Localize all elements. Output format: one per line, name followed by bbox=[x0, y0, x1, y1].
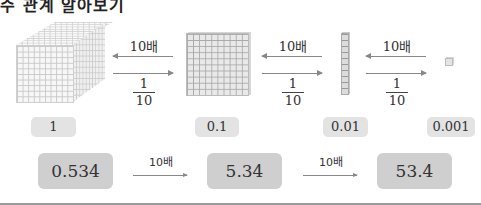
left-arrow-icon bbox=[113, 56, 173, 57]
ten-rod-illustration bbox=[341, 33, 349, 95]
conversion-arrows-3: 10배 1 10 bbox=[366, 36, 428, 106]
times-ten-arrow-2: 10배 bbox=[303, 153, 359, 183]
value-tag-0-001: 0.001 bbox=[427, 117, 475, 137]
one-tenth-fraction: 1 10 bbox=[262, 77, 324, 108]
bottom-divider bbox=[0, 203, 481, 205]
left-arrow-icon bbox=[366, 56, 426, 57]
right-arrow-icon bbox=[133, 175, 187, 176]
numerator: 1 bbox=[366, 77, 428, 91]
right-arrow-icon bbox=[303, 175, 357, 176]
right-arrow-icon bbox=[113, 73, 173, 74]
times-ten-arrow-1: 10배 bbox=[133, 153, 189, 183]
denominator: 10 bbox=[366, 94, 428, 108]
times-ten-label: 10배 bbox=[366, 36, 428, 55]
left-arrow-icon bbox=[262, 56, 322, 57]
denominator: 10 bbox=[262, 94, 324, 108]
numerator: 1 bbox=[262, 77, 324, 91]
times-ten-label: 10배 bbox=[133, 153, 189, 169]
example-value-5-34: 5.34 bbox=[207, 153, 282, 189]
section-heading: 수 관계 알아보기 bbox=[0, 0, 125, 16]
times-ten-label: 10배 bbox=[262, 36, 324, 55]
times-ten-label: 10배 bbox=[303, 153, 359, 169]
value-tag-0-1: 0.1 bbox=[195, 117, 239, 137]
value-tag-0-01: 0.01 bbox=[323, 117, 368, 137]
numerator: 1 bbox=[113, 77, 175, 91]
value-tag-1: 1 bbox=[31, 117, 76, 137]
right-arrow-icon bbox=[262, 73, 322, 74]
unit-cube-illustration bbox=[445, 58, 453, 66]
one-tenth-fraction: 1 10 bbox=[366, 77, 428, 108]
times-ten-label: 10배 bbox=[113, 36, 175, 55]
cube-front-face bbox=[16, 45, 74, 103]
conversion-arrows-1: 10배 1 10 bbox=[113, 36, 175, 106]
example-value-0-534: 0.534 bbox=[38, 153, 113, 189]
example-value-53-4: 53.4 bbox=[377, 153, 452, 189]
right-arrow-icon bbox=[366, 73, 426, 74]
denominator: 10 bbox=[113, 94, 175, 108]
one-tenth-fraction: 1 10 bbox=[113, 77, 175, 108]
hundred-flat-illustration bbox=[186, 33, 249, 96]
conversion-arrows-2: 10배 1 10 bbox=[262, 36, 324, 106]
